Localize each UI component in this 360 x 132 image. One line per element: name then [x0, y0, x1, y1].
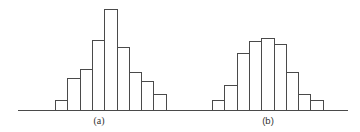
histogram-bar [224, 85, 238, 110]
x-axis-a [18, 110, 180, 111]
histogram-bar [261, 38, 275, 110]
histogram-bar [104, 9, 118, 110]
histogram-bar [310, 100, 324, 110]
caption-b: (b) [253, 115, 283, 126]
x-axis-b [180, 110, 348, 111]
histogram-bar [153, 94, 167, 110]
histogram-bar [67, 78, 81, 110]
caption-a: (a) [84, 115, 114, 126]
